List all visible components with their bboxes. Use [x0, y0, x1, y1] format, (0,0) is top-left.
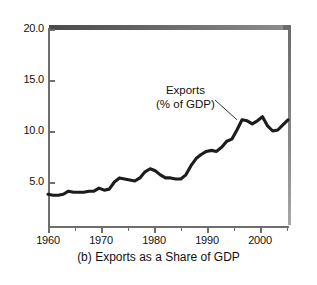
annotation-line-1: Exports: [156, 84, 215, 98]
series-canvas: [0, 0, 317, 285]
annotation-line-2: (% of GDP): [156, 98, 215, 112]
annotation-leader-line: [215, 100, 237, 120]
series-line-exports: [48, 117, 288, 196]
figure-exports-share-of-gdp: 20.0 15.0 10.0 5.0 1960 1970 1980 1990 2…: [0, 0, 317, 285]
annotation-exports: Exports (% of GDP): [156, 84, 215, 111]
figure-caption: (b) Exports as a Share of GDP: [0, 250, 317, 264]
